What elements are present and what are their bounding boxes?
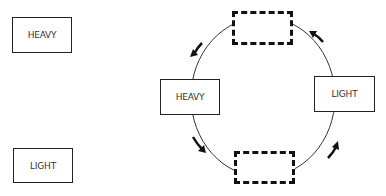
cycle-light-box: LIGHT (314, 76, 375, 112)
legend-heavy-box: HEAVY (12, 17, 72, 53)
arrow-bottom-left-icon (193, 137, 206, 153)
legend-light-box: LIGHT (13, 148, 73, 183)
arrow-top-left-icon (190, 43, 202, 57)
top-empty-slot (232, 11, 293, 45)
legend-heavy-label: HEAVY (28, 30, 57, 40)
cycle-heavy-box: HEAVY (160, 79, 220, 115)
arrow-bottom-right-icon (328, 141, 339, 158)
legend-light-label: LIGHT (30, 161, 56, 171)
arrow-top-right-icon (309, 31, 323, 42)
cycle-heavy-label: HEAVY (176, 92, 205, 102)
bottom-empty-slot (234, 151, 295, 184)
cycle-light-label: LIGHT (332, 89, 358, 99)
